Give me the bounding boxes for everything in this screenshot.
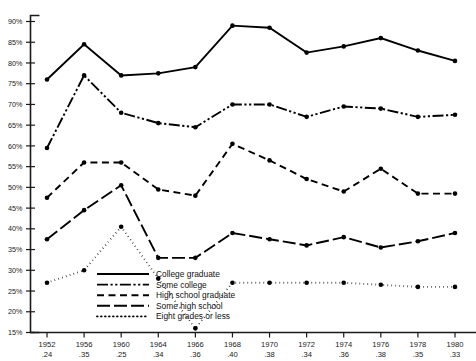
y-axis-tick-label: 50% (8, 183, 23, 192)
y-axis-tick-label: 60% (8, 142, 23, 151)
x-axis: 1952.241956.351960.251964.341966.361968.… (31, 333, 476, 359)
series-line (47, 75, 455, 148)
x-axis-tick-label-year: 1968 (224, 340, 241, 349)
series-line (47, 144, 455, 198)
data-point (267, 237, 272, 242)
x-axis-tick-label-year: 1964 (150, 340, 167, 349)
series-some-high-school (45, 183, 458, 260)
data-point (341, 189, 346, 194)
y-axis-tick-label: 35% (8, 245, 23, 254)
y-axis-tick-label: 15% (8, 328, 23, 337)
y-axis-tick-label: 90% (8, 17, 23, 26)
series-college-graduate (45, 23, 458, 82)
series-high-school-graduate (45, 142, 458, 201)
x-axis-tick-sublabel: .36 (190, 350, 201, 359)
legend-label: Some college (156, 280, 207, 290)
data-point (453, 59, 458, 64)
data-point (193, 256, 198, 261)
data-point (82, 208, 87, 213)
data-point (453, 113, 458, 118)
data-point (119, 224, 124, 229)
y-axis: 90%85%80%75%70%65%60%55%50%45%40%35%30%2… (8, 16, 39, 338)
data-point (379, 245, 384, 250)
data-point (379, 106, 384, 111)
legend-item-some-college: Some college (97, 280, 207, 290)
data-point (341, 235, 346, 240)
y-axis-tick-label: 65% (8, 121, 23, 130)
y-axis-tick-label: 30% (8, 266, 23, 275)
legend-item-high-school-graduate: High school graduate (97, 290, 235, 300)
data-point (416, 239, 421, 244)
data-point (156, 187, 161, 192)
series-line (47, 26, 455, 80)
series-line (47, 227, 455, 329)
data-point (453, 285, 458, 290)
data-point (156, 71, 161, 76)
legend-item-eight-grades-or-less: Eight grades or less (97, 311, 230, 321)
x-axis-tick-sublabel: .38 (264, 350, 275, 359)
data-point (416, 191, 421, 196)
data-point (304, 115, 309, 120)
chart-canvas: 90%85%80%75%70%65%60%55%50%45%40%35%30%2… (0, 0, 476, 361)
data-point (341, 104, 346, 109)
x-axis-tick-sublabel: .35 (413, 350, 424, 359)
data-point (45, 195, 50, 200)
data-point (230, 102, 235, 107)
data-point (341, 44, 346, 49)
chart-legend: College graduateSome collegeHigh school … (97, 269, 235, 321)
series-eight-grades-or-less (45, 224, 458, 330)
legend-label: High school graduate (156, 290, 235, 300)
x-axis-tick-sublabel: .24 (42, 350, 53, 359)
y-axis-tick-label: 85% (8, 38, 23, 47)
x-axis-tick-label-year: 1974 (335, 340, 352, 349)
legend-label: Some high school (156, 301, 223, 311)
data-point (119, 183, 124, 188)
x-axis-tick-label-year: 1972 (298, 340, 315, 349)
data-point (230, 231, 235, 236)
data-point (304, 177, 309, 182)
y-axis-tick-label: 20% (8, 307, 23, 316)
x-axis-tick-label-year: 1980 (447, 340, 464, 349)
legend-item-college-graduate: College graduate (97, 269, 220, 279)
x-axis-tick-label-year: 1976 (372, 340, 389, 349)
data-point (193, 193, 198, 198)
data-point (82, 268, 87, 273)
legend-label: Eight grades or less (156, 311, 230, 321)
data-point (193, 326, 198, 331)
y-axis-tick-label: 80% (8, 59, 23, 68)
line-chart: 90%85%80%75%70%65%60%55%50%45%40%35%30%2… (0, 0, 476, 361)
data-point (119, 160, 124, 165)
data-point (230, 23, 235, 28)
x-axis-tick-label-year: 1956 (76, 340, 93, 349)
legend-label: College graduate (156, 269, 220, 279)
legend-item-some-high-school: Some high school (97, 301, 223, 311)
data-point (193, 125, 198, 130)
data-point (156, 121, 161, 126)
y-axis-tick-label: 25% (8, 287, 23, 296)
y-axis-tick-label: 70% (8, 100, 23, 109)
data-point (304, 280, 309, 285)
data-point (45, 146, 50, 151)
y-axis-tick-label: 45% (8, 204, 23, 213)
x-axis-tick-label-year: 1978 (409, 340, 426, 349)
data-point (119, 73, 124, 78)
data-point (341, 280, 346, 285)
data-point (119, 110, 124, 115)
x-axis-tick-label-year: 1960 (113, 340, 130, 349)
data-point (304, 50, 309, 55)
x-axis-tick-sublabel: .33 (450, 350, 461, 359)
x-axis-tick-sublabel: .40 (227, 350, 238, 359)
data-point (230, 142, 235, 147)
x-axis-tick-label-year: 1970 (261, 340, 278, 349)
x-axis-tick-label-year: 1966 (187, 340, 204, 349)
x-axis-tick-sublabel: .34 (153, 350, 164, 359)
data-point (379, 283, 384, 288)
y-axis-tick-label: 55% (8, 162, 23, 171)
data-point (45, 77, 50, 82)
data-point (304, 243, 309, 248)
data-point (453, 231, 458, 236)
data-point (379, 36, 384, 41)
data-point (379, 166, 384, 171)
data-point (267, 280, 272, 285)
x-axis-tick-sublabel: .25 (116, 350, 127, 359)
